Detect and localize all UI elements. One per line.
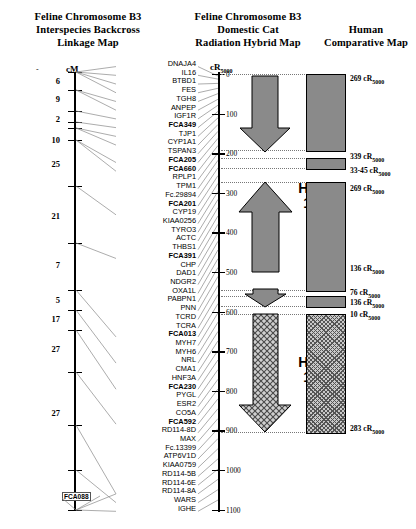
human-segment-label: 283 cR5000 bbox=[350, 424, 384, 435]
arrow-down-hsa14 bbox=[239, 314, 291, 432]
human-segment-size: 339 cR bbox=[350, 152, 372, 161]
human-segment-block bbox=[306, 74, 346, 152]
human-segment-subscript: 5000 bbox=[372, 189, 384, 195]
human-segment-label: 136 cR5000 bbox=[350, 298, 384, 309]
human-segment-size: 283 cR bbox=[350, 424, 372, 433]
human-segment-label: 10 cR5000 bbox=[350, 310, 380, 321]
human-segment-label: 269 cR5000 bbox=[350, 74, 384, 85]
human-segment-size: 269 cR bbox=[350, 184, 372, 193]
human-segment-subscript: 5000 bbox=[372, 429, 384, 435]
human-segment-label: 339 cR5000 bbox=[350, 152, 384, 163]
human-segment-label: 136 cR5000 bbox=[350, 264, 384, 275]
human-segment-subscript: 5000 bbox=[372, 157, 384, 163]
human-segment-size: 33-45 cR bbox=[350, 166, 378, 175]
arrow-down-top bbox=[240, 76, 290, 152]
human-segment-block bbox=[306, 296, 346, 308]
human-segment-subscript: 5000 bbox=[378, 171, 390, 177]
chromosome-comparative-figure: Feline Chromosome B3 Interspecies Backcr… bbox=[0, 0, 416, 529]
human-segment-block bbox=[306, 182, 346, 292]
human-segment-size: 136 cR bbox=[350, 298, 372, 307]
human-segment-label: 76 cR5000 bbox=[350, 288, 380, 299]
human-segment-size: 76 cR bbox=[350, 288, 368, 297]
human-segment-subscript: 5000 bbox=[372, 79, 384, 85]
human-segment-size: 269 cR bbox=[350, 74, 372, 83]
human-segment-subscript: 5000 bbox=[368, 315, 380, 321]
arrow-down-small bbox=[245, 289, 286, 307]
arrow-up-hsa15 bbox=[239, 182, 292, 272]
human-segment-label: 269 cR5000 bbox=[350, 184, 384, 195]
human-segment-size: 10 cR bbox=[350, 310, 368, 319]
human-segment-label: 33-45 cR5000 bbox=[350, 166, 390, 177]
human-segment-block bbox=[306, 158, 346, 170]
human-segment-size: 136 cR bbox=[350, 264, 372, 273]
human-segment-subscript: 5000 bbox=[372, 269, 384, 275]
human-segment-subscript: 5000 bbox=[372, 303, 384, 309]
human-segment-block bbox=[306, 314, 346, 434]
